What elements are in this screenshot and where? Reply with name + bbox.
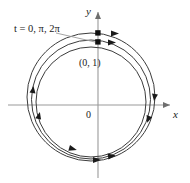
- x-axis-label: x: [172, 108, 178, 120]
- y-axis-arrowhead: [95, 12, 101, 19]
- y-axis-label: y: [85, 5, 91, 17]
- parameter-label: t = 0, π, 2π: [14, 23, 60, 34]
- marked-point-middle: [95, 39, 100, 44]
- origin-label: 0: [86, 109, 91, 120]
- circle-outer: [27, 33, 155, 161]
- x-axis-arrowhead: [163, 102, 170, 108]
- leader-line: [56, 33, 95, 42]
- arrow-top-outer: [111, 31, 119, 37]
- parametric-circle-figure: t = 0, π, 2π (0, 1) 0 x y: [0, 0, 190, 183]
- circles-group: [27, 33, 155, 161]
- point-label: (0, 1): [79, 57, 101, 69]
- arrow-bottom-outer: [68, 145, 77, 153]
- marked-point-outer: [95, 30, 100, 35]
- direction-arrows-group: [30, 31, 158, 164]
- figure-canvas: t = 0, π, 2π (0, 1) 0 x y: [0, 0, 190, 183]
- arrow-left-middle: [35, 111, 43, 119]
